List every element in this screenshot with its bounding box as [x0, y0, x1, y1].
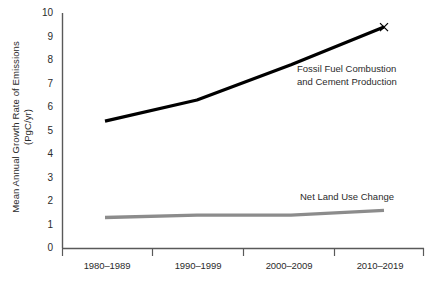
series-label-net-land-use-change-line1: Net Land Use Change: [300, 191, 394, 202]
y-tick-label-5: 5: [31, 126, 53, 136]
y-tick-label-3: 3: [31, 173, 53, 183]
y-tick-label-7: 7: [31, 79, 53, 89]
chart-plot-area: [0, 0, 434, 283]
y-tick-label-0: 0: [31, 243, 53, 253]
series-label-net-land-use-change: Net Land Use Change: [300, 190, 394, 203]
series-line-net-land-use-change: [105, 210, 384, 217]
series-label-fossil-fuel-line1: Fossil Fuel Combustion: [297, 63, 396, 74]
y-tick-label-4: 4: [31, 149, 53, 159]
y-tick-label-10: 10: [31, 8, 53, 18]
y-tick-label-8: 8: [31, 55, 53, 65]
x-tick-label-2010-2019: 2010–2019: [335, 260, 425, 271]
y-tick-label-9: 9: [31, 32, 53, 42]
series-label-fossil-fuel: Fossil Fuel Combustion and Cement Produc…: [297, 62, 397, 88]
y-tick-label-1: 1: [31, 220, 53, 230]
x-tick-label-1980-1989: 1980–1989: [62, 260, 152, 271]
y-tick-label-6: 6: [31, 102, 53, 112]
series-label-fossil-fuel-line2: and Cement Production: [297, 76, 397, 87]
y-tick-label-2: 2: [31, 196, 53, 206]
x-tick-label-2000-2009: 2000–2009: [244, 260, 334, 271]
emissions-growth-rate-chart: Mean Annual Growth Rate of Emissions (Pg…: [0, 0, 434, 283]
x-tick-label-1990-1999: 1990–1999: [153, 260, 243, 271]
y-axis-title-line1: Mean Annual Growth Rate of Emissions: [10, 27, 22, 227]
